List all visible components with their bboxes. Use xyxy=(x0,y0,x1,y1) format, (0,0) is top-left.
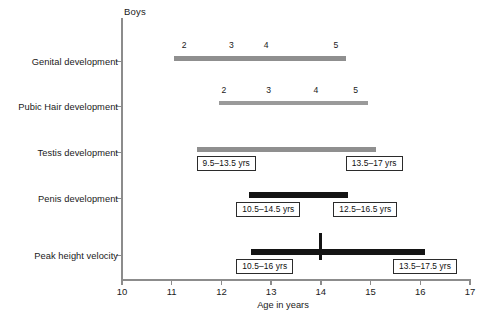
bar-testis-development xyxy=(197,147,376,152)
y-axis-label-pubic-hair-development: Pubic Hair development xyxy=(18,102,118,112)
x-tick-10 xyxy=(121,279,122,285)
y-axis-label-genital-development: Genital development xyxy=(32,57,118,67)
x-tick-label-17: 17 xyxy=(465,286,476,297)
bar-peak-height-velocity xyxy=(251,249,425,255)
peak-height-velocity-marker xyxy=(319,233,322,260)
stage-number-2: 2 xyxy=(222,85,227,95)
stage-number-4: 4 xyxy=(264,40,269,50)
x-tick-17 xyxy=(469,279,470,285)
callout-box: 10.5–14.5 yrs xyxy=(236,202,300,217)
x-tick-label-14: 14 xyxy=(316,286,327,297)
x-axis-line xyxy=(121,279,471,281)
x-tick-label-11: 11 xyxy=(167,286,177,297)
y-axis-label-testis-development: Testis development xyxy=(38,148,118,158)
puberty-timeline-chart: Boys 1011121314151617 Genital developmen… xyxy=(0,0,494,320)
chart-title: Boys xyxy=(124,6,146,17)
callout-box: 9.5–13.5 yrs xyxy=(197,156,256,171)
x-tick-label-13: 13 xyxy=(266,286,277,297)
callout-box: 12.5–16.5 yrs xyxy=(333,202,397,217)
x-tick-15 xyxy=(370,279,371,285)
x-tick-label-15: 15 xyxy=(365,286,376,297)
callout-box: 13.5–17 yrs xyxy=(346,156,403,171)
stage-number-3: 3 xyxy=(266,85,271,95)
bar-genital-development xyxy=(174,56,346,61)
stage-number-3: 3 xyxy=(229,40,234,50)
stage-number-2: 2 xyxy=(182,40,187,50)
x-tick-label-12: 12 xyxy=(216,286,227,297)
x-tick-label-16: 16 xyxy=(415,286,426,297)
x-axis-title-text: Age in years xyxy=(257,300,309,310)
bar-penis-development xyxy=(249,192,348,198)
y-axis-line xyxy=(121,18,123,280)
callout-box: 13.5–17.5 yrs xyxy=(393,259,457,274)
callout-box: 10.5–16 yrs xyxy=(236,259,293,274)
x-tick-11 xyxy=(171,279,172,285)
bar-pubic-hair-development xyxy=(219,101,368,105)
x-tick-16 xyxy=(420,279,421,285)
stage-number-5: 5 xyxy=(333,40,338,50)
stage-number-5: 5 xyxy=(353,85,358,95)
y-axis-label-peak-height-velocity: Peak height velocity xyxy=(34,251,118,261)
stage-number-4: 4 xyxy=(313,85,318,95)
x-tick-12 xyxy=(221,279,222,285)
x-axis-title: Age in years xyxy=(0,300,494,310)
x-tick-label-10: 10 xyxy=(117,286,128,297)
x-tick-14 xyxy=(320,279,321,285)
x-tick-13 xyxy=(270,279,271,285)
y-axis-label-penis-development: Penis development xyxy=(38,194,118,204)
